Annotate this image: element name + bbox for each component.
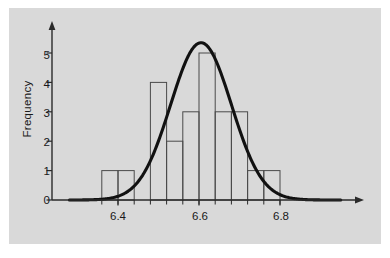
histogram-bar [199,53,215,200]
histogram-bar [248,171,264,200]
histogram-bar [167,141,183,200]
y-tick-label-5: 5 [30,50,50,62]
x-tick-label-6-8: 6.8 [261,211,301,223]
y-tick-label-4: 4 [30,79,50,91]
y-tick-label-2: 2 [30,137,50,149]
histogram-bar [183,112,199,200]
x-tick-label-6-4: 6.4 [98,211,138,223]
y-tick-label-1: 1 [30,166,50,178]
normal-curve [69,43,340,200]
histogram-bar [215,112,231,200]
y-tick-label-3: 3 [30,108,50,120]
histogram-bars [102,53,280,200]
axis-lines [47,21,365,206]
x-tick-label-6-6: 6.6 [180,211,220,223]
normal-density-curve [69,43,340,200]
histogram-figure: Frequency 0 1 2 3 4 5 6.4 6.6 6.8 [0,0,390,258]
y-tick-label-0: 0 [30,195,50,207]
